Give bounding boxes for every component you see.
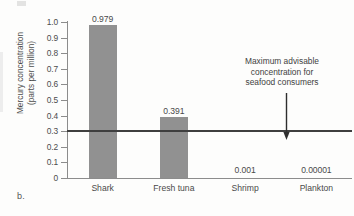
y-tick-mark: [61, 147, 67, 148]
threshold-annotation: Maximum advisable concentration for seaf…: [207, 56, 354, 88]
threshold-line: [67, 130, 352, 132]
x-category-label: Plankton: [271, 183, 354, 193]
y-tick-label: 0.4: [18, 112, 58, 120]
y-tick-label: 0.6: [18, 80, 58, 88]
y-tick-label: 0.3: [18, 127, 58, 135]
scan-edge-artifact: [0, 52, 3, 112]
y-tick-label: 0.8: [18, 49, 58, 57]
y-tick-label: 1.0: [18, 18, 58, 26]
y-tick-mark: [61, 100, 67, 101]
annotation-line-3: seafood consumers: [207, 77, 354, 88]
y-tick-mark: [61, 84, 67, 85]
bar: [160, 117, 188, 178]
bar-value-label: 0.391: [134, 106, 214, 116]
bar-value-label: 0.979: [63, 14, 143, 24]
y-axis-line: [67, 21, 68, 179]
y-tick-label: 0.7: [18, 65, 58, 73]
y-tick-label: 0.9: [18, 34, 58, 42]
annotation-line-2: concentration for: [207, 67, 354, 78]
annotation-line-1: Maximum advisable: [207, 56, 354, 67]
annotation-arrow-icon: [282, 93, 291, 140]
bar-value-label: 0.001: [205, 165, 285, 175]
y-tick-mark: [61, 116, 67, 117]
y-tick-label: 0.5: [18, 96, 58, 104]
y-tick-mark: [61, 69, 67, 70]
bar: [89, 25, 117, 178]
bar-value-label: 0.00001: [276, 165, 354, 175]
y-tick-label: 0.2: [18, 143, 58, 151]
y-tick-mark: [61, 178, 67, 179]
x-axis-line: [67, 178, 352, 179]
y-tick-mark: [61, 38, 67, 39]
y-tick-label: 0: [18, 174, 58, 182]
figure-letter: b.: [17, 191, 25, 201]
y-tick-mark: [61, 53, 67, 54]
y-tick-mark: [61, 162, 67, 163]
y-tick-label: 0.1: [18, 158, 58, 166]
figure-panel: b. Mercury concentration (parts per mill…: [0, 0, 354, 216]
